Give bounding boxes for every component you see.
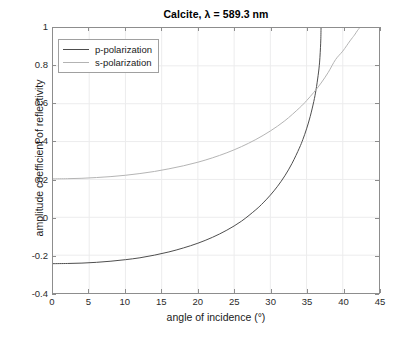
legend-swatch-icon: [63, 49, 89, 50]
x-tick-label: 45: [365, 296, 395, 307]
x-tick-mark: [161, 289, 162, 293]
figure-canvas: Calcite, λ = 589.3 nm 051015202530354045…: [0, 0, 397, 341]
x-tick-mark: [380, 289, 381, 293]
x-tick-mark: [271, 289, 272, 293]
y-tick-mark: [375, 256, 379, 257]
x-tick-mark: [198, 27, 199, 31]
x-tick-mark: [234, 289, 235, 293]
y-tick-mark: [375, 218, 379, 219]
y-tick-mark: [375, 180, 379, 181]
x-tick-label: 35: [292, 296, 322, 307]
legend-item-p-polarization[interactable]: p-polarization: [63, 43, 152, 56]
y-axis-title: amplitude coefficient of reflectivity: [33, 25, 45, 292]
x-tick-mark: [125, 289, 126, 293]
x-tick-mark: [161, 27, 162, 31]
y-tick-mark: [52, 294, 56, 295]
x-tick-label: 20: [183, 296, 213, 307]
x-tick-mark: [344, 27, 345, 31]
x-tick-mark: [307, 27, 308, 31]
y-tick-mark: [52, 180, 56, 181]
x-tick-mark: [198, 289, 199, 293]
y-tick-mark: [375, 294, 379, 295]
x-tick-mark: [88, 289, 89, 293]
y-tick-mark: [52, 141, 56, 142]
x-tick-label: 15: [146, 296, 176, 307]
x-tick-mark: [52, 289, 53, 293]
y-tick-mark: [375, 103, 379, 104]
legend-box[interactable]: p-polarizations-polarization: [58, 39, 159, 73]
x-tick-mark: [271, 27, 272, 31]
x-tick-label: 30: [256, 296, 286, 307]
y-tick-mark: [375, 65, 379, 66]
y-tick-mark: [52, 103, 56, 104]
x-tick-label: 25: [219, 296, 249, 307]
x-axis-title: angle of incidence (°): [52, 311, 380, 323]
x-tick-label: 5: [73, 296, 103, 307]
x-tick-mark: [88, 27, 89, 31]
y-tick-mark: [375, 27, 379, 28]
x-tick-mark: [344, 289, 345, 293]
x-tick-label: 40: [329, 296, 359, 307]
x-tick-mark: [234, 27, 235, 31]
y-tick-mark: [52, 218, 56, 219]
legend-item-s-polarization[interactable]: s-polarization: [63, 56, 152, 69]
x-tick-mark: [307, 289, 308, 293]
y-tick-mark: [52, 27, 56, 28]
y-tick-mark: [52, 256, 56, 257]
legend-swatch-icon: [63, 62, 89, 63]
y-tick-mark: [52, 65, 56, 66]
y-tick-mark: [375, 141, 379, 142]
x-tick-mark: [125, 27, 126, 31]
x-tick-mark: [380, 27, 381, 31]
chart-title: Calcite, λ = 589.3 nm: [52, 8, 380, 20]
legend-label: p-polarization: [95, 43, 152, 56]
x-tick-label: 10: [110, 296, 140, 307]
legend-label: s-polarization: [95, 56, 152, 69]
